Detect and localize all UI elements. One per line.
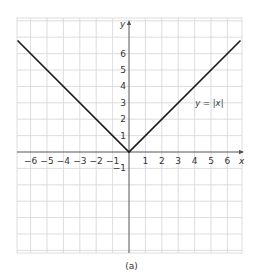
x-tick-label: −5: [40, 156, 53, 166]
x-tick-label: 1: [143, 156, 149, 166]
x-axis-label: x: [238, 156, 245, 166]
x-tick-label: 6: [225, 156, 231, 166]
y-tick-label: −1: [113, 163, 126, 173]
y-tick-label: 6: [120, 49, 126, 59]
y-tick-label: 5: [120, 65, 126, 75]
x-tick-label: 5: [208, 156, 214, 166]
x-tick-label: −2: [90, 156, 103, 166]
x-tick-label: 2: [159, 156, 165, 166]
x-tick-label: 4: [192, 156, 198, 166]
y-tick-label: 2: [120, 114, 126, 124]
x-axis-arrow-icon: [239, 150, 244, 154]
figure-caption: (a): [0, 261, 263, 271]
absolute-value-graph: xy −6−5−4−3−2−1123456−1123456 y = |x|: [0, 0, 263, 279]
x-tick-label: 3: [175, 156, 181, 166]
y-tick-label: 4: [120, 81, 126, 91]
x-tick-label: −4: [57, 156, 71, 166]
y-tick-label: 3: [120, 98, 126, 108]
annotations: y = |x|: [194, 98, 223, 108]
function-label: y = |x|: [194, 98, 223, 108]
y-tick-label: 1: [120, 131, 126, 141]
x-tick-label: −6: [24, 156, 38, 166]
tick-labels: −6−5−4−3−2−1123456−1123456: [24, 49, 231, 174]
y-axis-label: y: [119, 19, 126, 29]
x-tick-label: −3: [73, 156, 86, 166]
